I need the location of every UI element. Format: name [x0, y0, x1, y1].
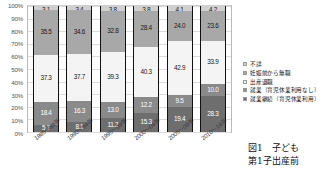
y-axis-tick: 40%	[11, 78, 23, 85]
y-axis-tick: 50%	[11, 66, 23, 73]
bar-segment: 12.2	[134, 97, 158, 112]
y-axis-tick: 80%	[11, 27, 23, 34]
x-axis-tick: 1990～94年	[65, 133, 91, 173]
bar-segment: 10.0	[201, 84, 225, 97]
bar-segment: 35.5	[34, 10, 58, 55]
y-axis: 0%10%20%30%40%50%60%70%80%90%100%	[0, 5, 25, 133]
bar-segment-value: 35.5	[40, 29, 51, 35]
legend-item-label: 就業継続（育児休業利用）	[250, 95, 320, 103]
x-axis-tick: 1985～89年	[32, 133, 58, 173]
bar-segment-value: 28.3	[207, 111, 218, 117]
bar-segment-value: 32.8	[107, 28, 118, 34]
bar-column: 3.434.637.716.38.1	[66, 6, 92, 132]
caption-line-2: 第1子出産前	[248, 155, 320, 168]
bar-segment-value: 24.0	[174, 23, 185, 29]
y-axis-tick: 70%	[11, 40, 23, 47]
legend-item: 就業継続（育児休業利用）	[243, 95, 320, 103]
y-axis-tick: 20%	[11, 104, 23, 111]
legend-swatch-icon	[243, 71, 247, 75]
bar-segment-value: 37.3	[40, 75, 51, 81]
bar-column: 4.223.633.910.028.3	[200, 6, 226, 132]
y-axis-tick: 90%	[11, 14, 23, 21]
legend-item: 妊娠前から無職	[243, 69, 320, 77]
legend-swatch-icon	[243, 88, 247, 92]
bar-stack: 3.828.440.312.215.3	[133, 6, 159, 132]
legend-item: 出産退職	[243, 78, 320, 86]
bar-segment: 40.3	[134, 47, 158, 98]
bar-segment-value: 39.3	[107, 74, 118, 80]
y-axis-tick: 100%	[8, 2, 23, 9]
plot-wrapper: 3.135.537.318.45.73.434.637.716.38.13.83…	[27, 5, 232, 133]
plot-area: 3.135.537.318.45.73.434.637.716.38.13.83…	[27, 5, 232, 133]
chart-legend: 不詳妊娠前から無職出産退職就業（育児休業利用なし）就業継続（育児休業利用）	[243, 60, 320, 104]
bar-stack: 3.135.537.318.45.7	[33, 6, 59, 132]
legend-swatch-icon	[243, 80, 247, 84]
figure-page: 0%10%20%30%40%50%60%70%80%90%100% 3.135.…	[0, 0, 320, 179]
bar-segment-value: 13.0	[107, 107, 118, 113]
bar-stack: 3.434.637.716.38.1	[66, 6, 92, 132]
bar-column: 3.135.537.318.45.7	[33, 6, 59, 132]
y-axis-tick: 10%	[11, 117, 23, 124]
bar-segment-value: 23.6	[207, 23, 218, 29]
x-axis: 1985～89年1990～94年1995～99年2000～04年2005～09年…	[27, 133, 232, 173]
legend-item: 就業（育児休業利用なし）	[243, 86, 320, 94]
bar-segment-value: 18.4	[40, 110, 51, 116]
y-axis-tick: 60%	[11, 53, 23, 60]
bar-segment: 28.4	[134, 11, 158, 47]
figure-caption: 図1 子ども 第1子出産前	[248, 142, 320, 168]
legend-item-label: 出産退職	[250, 78, 273, 86]
legend-swatch-icon	[243, 97, 247, 101]
bar-segment: 13.0	[101, 102, 125, 118]
legend-item-label: 不詳	[250, 60, 262, 68]
bar-column: 4.124.042.99.519.4	[167, 6, 193, 132]
bar-segment: 37.3	[34, 55, 58, 102]
bar-segment-value: 12.2	[141, 102, 152, 108]
bar-segment-value: 40.3	[141, 69, 152, 75]
bar-segment: 32.8	[101, 11, 125, 52]
bar-column: 3.832.839.313.011.2	[100, 6, 126, 132]
legend-item-label: 就業（育児休業利用なし）	[250, 86, 320, 94]
bar-segment: 34.6	[67, 10, 91, 54]
bar-column: 3.828.440.312.215.3	[133, 6, 159, 132]
bar-group: 3.135.537.318.45.73.434.637.716.38.13.83…	[28, 6, 231, 132]
bar-segment: 24.0	[168, 11, 192, 41]
bar-segment: 39.3	[101, 52, 125, 101]
legend-item-label: 妊娠前から無職	[250, 69, 291, 77]
bar-stack: 4.124.042.99.519.4	[167, 6, 193, 132]
x-axis-tick: 1995～99年	[99, 133, 125, 173]
legend-item: 不詳	[243, 60, 320, 68]
bar-segment: 42.9	[168, 41, 192, 95]
caption-line-1: 図1 子ども	[248, 142, 320, 155]
bar-segment: 9.5	[168, 95, 192, 107]
bar-segment: 33.9	[201, 41, 225, 84]
stacked-bar-chart: 0%10%20%30%40%50%60%70%80%90%100% 3.135.…	[0, 0, 240, 179]
bar-stack: 3.832.839.313.011.2	[100, 6, 126, 132]
bar-stack: 4.223.633.910.028.3	[200, 6, 226, 132]
legend-swatch-icon	[243, 62, 247, 66]
y-axis-tick: 30%	[11, 91, 23, 98]
bar-segment: 37.7	[67, 54, 91, 101]
y-axis-tick: 0%	[14, 130, 23, 137]
x-axis-tick: 2005～09年	[166, 133, 192, 173]
bar-segment-value: 16.3	[74, 108, 85, 114]
bar-segment-value: 42.9	[174, 65, 185, 71]
bar-segment-value: 33.9	[207, 59, 218, 65]
x-axis-tick: 2010～14年	[199, 133, 225, 173]
bar-segment: 23.6	[201, 11, 225, 41]
bar-segment-value: 37.7	[74, 74, 85, 80]
bar-segment-value: 10.0	[207, 87, 218, 93]
bar-segment-value: 9.5	[176, 98, 184, 104]
bar-segment-value: 34.6	[74, 29, 85, 35]
bar-segment-value: 28.4	[141, 25, 152, 31]
x-axis-tick: 2000～04年	[132, 133, 158, 173]
